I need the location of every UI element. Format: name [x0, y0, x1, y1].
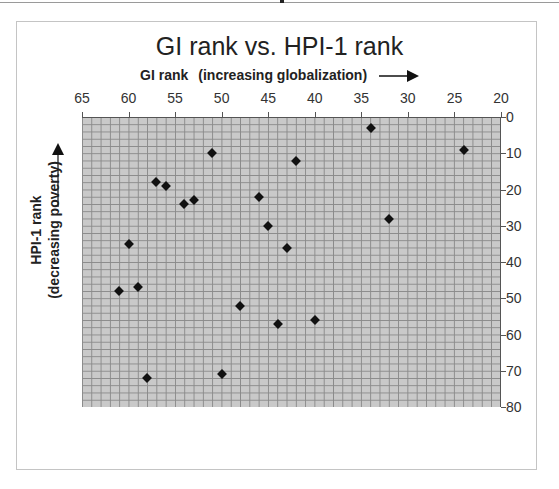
chart-title: GI rank vs. HPI-1 rank: [0, 32, 559, 61]
y-axis-label-note: (decreasing poverty): [45, 150, 63, 310]
y-tick-label: 70: [506, 363, 522, 379]
right-arrow-icon: [379, 70, 419, 82]
x-tick-label: 25: [447, 90, 463, 106]
y-tick-mark: [501, 371, 506, 372]
y-tick-label: 50: [506, 290, 522, 306]
y-tick-label: 40: [506, 254, 522, 270]
y-tick-mark: [501, 117, 506, 118]
y-tick-label: 10: [506, 145, 522, 161]
x-axis-label-main: GI rank: [140, 67, 188, 83]
y-tick-label: 0: [506, 109, 514, 125]
x-tick-label: 60: [121, 90, 137, 106]
y-tick-mark: [501, 335, 506, 336]
x-tick-label: 20: [493, 90, 509, 106]
x-tick-label: 55: [167, 90, 183, 106]
y-tick-mark: [501, 298, 506, 299]
y-tick-mark: [501, 190, 506, 191]
y-axis-label: HPI-1 rank (decreasing poverty): [27, 150, 67, 310]
x-axis-label: GI rank(increasing globalization): [0, 67, 559, 83]
y-tick-label: 30: [506, 218, 522, 234]
x-tick-label: 40: [307, 90, 323, 106]
x-tick-label: 65: [74, 90, 90, 106]
x-tick-label: 50: [214, 90, 230, 106]
x-axis-line: [82, 117, 501, 118]
y-axis-label-main: HPI-1 rank: [27, 150, 45, 310]
y-tick-mark: [501, 226, 506, 227]
x-axis-label-note: (increasing globalization): [198, 67, 367, 83]
y-tick-label: 60: [506, 327, 522, 343]
x-tick-label: 30: [400, 90, 416, 106]
x-tick-label: 35: [354, 90, 370, 106]
y-tick-mark: [501, 153, 506, 154]
y-tick-label: 20: [506, 182, 522, 198]
cropped-text-fragment: [280, 0, 284, 3]
y-axis-line: [500, 117, 501, 407]
y-tick-label: 80: [506, 399, 522, 415]
y-tick-mark: [501, 407, 506, 408]
x-tick-label: 45: [260, 90, 276, 106]
y-tick-mark: [501, 262, 506, 263]
